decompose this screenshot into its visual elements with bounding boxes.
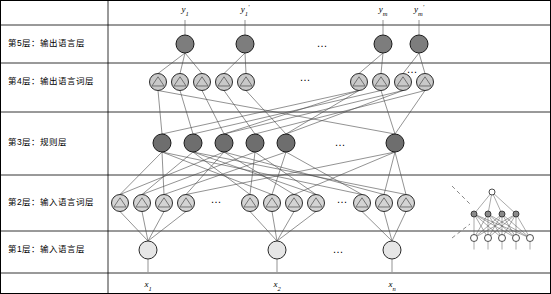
layer-label-layer4: 第4层：输出语言词层	[8, 76, 94, 86]
ellipsis-6: …	[407, 63, 418, 75]
node-layer3-3	[246, 134, 264, 152]
layer-label-layer1: 第1层：输入语言层	[8, 244, 85, 254]
node-layer3-2	[215, 134, 233, 152]
ellipsis-0: …	[317, 37, 328, 49]
node-layer1-0	[139, 241, 157, 259]
node-layer2-9	[376, 195, 393, 212]
layer-label-layer5: 第5层：输出语言层	[8, 38, 85, 48]
ellipsis-1: …	[300, 71, 311, 83]
mini-node-bottom_nodes-1	[485, 235, 492, 242]
mini-node-bottom_nodes-2	[499, 235, 506, 242]
node-layer2-2	[156, 195, 173, 212]
node-layer4-7	[395, 74, 412, 91]
node-layer1-1	[268, 241, 286, 259]
node-layer3-0	[153, 134, 171, 152]
node-layer3-4	[277, 134, 295, 152]
node-layer2-8	[354, 195, 371, 212]
node-layer5-1	[236, 35, 254, 53]
node-layer2-6	[286, 195, 303, 212]
node-layer4-3	[216, 74, 233, 91]
mini-node-mid_nodes-3	[513, 211, 519, 217]
node-layer4-2	[194, 74, 211, 91]
node-layer4-5	[351, 74, 368, 91]
figure-root: ………………… 第5层：输出语言层第4层：输出语言词层第3层：规则层第2层：输入…	[0, 0, 551, 294]
node-layer5-2	[374, 35, 392, 53]
node-layer2-7	[308, 195, 325, 212]
node-layer2-3	[178, 195, 195, 212]
fuzzy-neural-network-diagram: ………………… 第5层：输出语言层第4层：输出语言词层第3层：规则层第2层：输入…	[0, 0, 551, 294]
mini-node-bottom_nodes-4	[527, 235, 534, 242]
mini-node-mid_nodes-0	[471, 211, 477, 217]
ellipsis-2: …	[335, 136, 346, 148]
node-layer4-0	[150, 74, 167, 91]
node-layer2-4	[242, 195, 259, 212]
mini-node-mid_nodes-2	[499, 211, 505, 217]
node-layer1-2	[383, 241, 401, 259]
node-layer4-6	[373, 74, 390, 91]
node-layer2-5	[264, 195, 281, 212]
node-layer2-1	[134, 195, 151, 212]
layer-label-layer2: 第2层：输入语言词层	[8, 197, 94, 207]
ellipsis-3: …	[211, 193, 222, 205]
node-layer2-10	[398, 195, 415, 212]
node-layer4-4	[238, 74, 255, 91]
mini-node-top_nodes-0	[489, 189, 495, 195]
ellipsis-4: …	[337, 193, 348, 205]
mini-node-mid_nodes-1	[485, 211, 491, 217]
node-layer4-8	[417, 74, 434, 91]
node-layer3-5	[386, 134, 404, 152]
ellipsis-5: …	[333, 243, 344, 255]
mini-node-bottom_nodes-3	[513, 235, 520, 242]
node-layer5-3	[410, 35, 428, 53]
mini-node-bottom_nodes-0	[471, 235, 478, 242]
layer-label-layer3: 第3层：规则层	[8, 137, 67, 147]
node-layer5-0	[176, 35, 194, 53]
node-layer2-0	[112, 195, 129, 212]
node-layer4-1	[172, 74, 189, 91]
node-layer3-1	[184, 134, 202, 152]
